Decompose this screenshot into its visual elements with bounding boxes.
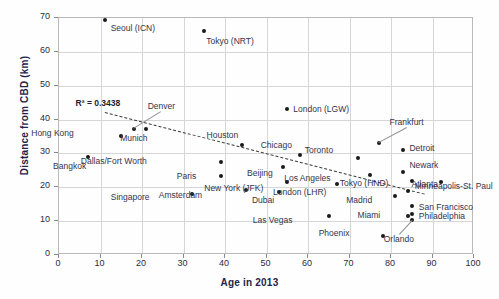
x-axis-tick-label: 10 — [85, 258, 115, 268]
y-axis-tick-label: 0 — [16, 248, 50, 258]
gridline-vertical — [350, 18, 351, 253]
label-leader-line — [399, 220, 413, 235]
data-point-label: Tokyo (HND) — [340, 179, 389, 188]
y-axis-tick-label: 30 — [16, 146, 50, 156]
data-point-label: Frankfurt — [390, 118, 424, 127]
x-axis-tick-mark — [183, 254, 184, 258]
x-axis-title: Age in 2013 — [0, 277, 499, 288]
data-point — [281, 165, 285, 169]
gridline-horizontal — [59, 86, 472, 87]
data-point — [401, 170, 405, 174]
data-point-label: Hong Kong — [31, 129, 74, 138]
y-axis-tick-mark — [54, 152, 58, 153]
scatter-chart: R² = 0.3438Seoul (ICN)Tokyo (NRT)Hong Ko… — [0, 0, 499, 299]
data-point — [356, 156, 360, 160]
data-point — [219, 160, 223, 164]
x-axis-tick-mark — [224, 254, 225, 258]
data-point — [439, 180, 443, 184]
data-point-label: Paris — [177, 172, 196, 181]
data-point — [410, 204, 414, 208]
data-point-label: Los Angeles — [284, 174, 330, 183]
data-point-label: Houston — [207, 131, 239, 140]
x-axis-tick-mark — [349, 254, 350, 258]
data-point-label: Munich — [120, 134, 147, 143]
y-axis-tick-mark — [54, 51, 58, 52]
data-point — [144, 127, 148, 131]
data-point-label: Tokyo (NRT) — [206, 37, 254, 46]
x-axis-tick-label: 20 — [126, 258, 156, 268]
data-point-label: Dubai — [252, 196, 274, 205]
x-axis-tick-label: 30 — [168, 258, 198, 268]
data-point — [393, 194, 397, 198]
data-point — [240, 143, 244, 147]
data-point — [406, 189, 410, 193]
data-point-label: Miami — [358, 211, 381, 220]
x-axis-tick-mark — [100, 254, 101, 258]
y-axis-tick-label: 70 — [16, 11, 50, 21]
x-axis-tick-mark — [141, 254, 142, 258]
y-axis-tick-label: 50 — [16, 79, 50, 89]
y-axis-tick-mark — [54, 254, 58, 255]
x-axis-tick-mark — [432, 254, 433, 258]
data-point-label: New York (JFK) — [204, 184, 263, 193]
data-point — [202, 29, 206, 33]
x-axis-tick-mark — [58, 254, 59, 258]
data-point-label: San Francisco — [419, 203, 473, 212]
x-axis-tick-label: 50 — [251, 258, 281, 268]
y-axis-tick-mark — [54, 186, 58, 187]
data-point-label: Orlando — [384, 235, 414, 244]
x-axis-tick-mark — [307, 254, 308, 258]
data-point-label: Newark — [409, 161, 438, 170]
data-point — [285, 107, 289, 111]
x-axis-tick-label: 90 — [417, 258, 447, 268]
data-point-label: Las Vegas — [253, 216, 293, 225]
x-axis-tick-mark — [390, 254, 391, 258]
data-point-label: Amsterdam — [159, 191, 202, 200]
y-axis-tick-label: 10 — [16, 214, 50, 224]
gridline-vertical — [184, 18, 185, 253]
x-axis-tick-mark — [473, 254, 474, 258]
data-point — [103, 18, 107, 22]
data-point-label: Chicago — [261, 141, 292, 150]
x-axis-tick-label: 40 — [209, 258, 239, 268]
r-squared-annotation: R² = 0.3438 — [76, 98, 121, 108]
data-point — [368, 173, 372, 177]
data-point-label: Detroit — [409, 144, 434, 153]
y-axis-tick-mark — [54, 17, 58, 18]
data-point-label: Toronto — [305, 146, 333, 155]
gridline-horizontal — [59, 187, 472, 188]
y-axis-tick-mark — [54, 220, 58, 221]
data-point-label: Singapore — [111, 193, 150, 202]
data-point-label: Dallas/Fort Worth — [81, 157, 147, 166]
data-point-label: Philadelphia — [419, 212, 465, 221]
data-point — [406, 214, 410, 218]
y-axis-tick-mark — [54, 119, 58, 120]
data-point-label: Denver — [148, 102, 175, 111]
x-axis-tick-mark — [266, 254, 267, 258]
gridline-vertical — [308, 18, 309, 253]
data-point — [219, 174, 223, 178]
label-leader-line — [378, 127, 406, 143]
x-axis-tick-label: 100 — [458, 258, 488, 268]
gridline-horizontal — [59, 52, 472, 53]
y-axis-tick-mark — [54, 85, 58, 86]
x-axis-tick-label: 0 — [43, 258, 73, 268]
data-point-label: London (LGW) — [293, 105, 349, 114]
data-point — [410, 212, 414, 216]
x-axis-tick-label: 70 — [334, 258, 364, 268]
x-axis-tick-label: 60 — [292, 258, 322, 268]
data-point-label: Beijing — [247, 169, 273, 178]
x-axis-tick-label: 80 — [375, 258, 405, 268]
y-axis-tick-label: 60 — [16, 45, 50, 55]
data-point — [327, 214, 331, 218]
data-point-label: Phoenix — [319, 229, 350, 238]
data-point-label: Madrid — [346, 196, 372, 205]
data-point-label: Seoul (ICN) — [111, 24, 155, 33]
gridline-vertical — [101, 18, 102, 253]
data-point-label: London (LHR) — [273, 188, 326, 197]
data-point — [401, 148, 405, 152]
data-point — [335, 182, 339, 186]
data-point-label: Atlanta — [412, 180, 438, 189]
y-axis-tick-label: 20 — [16, 180, 50, 190]
data-point — [298, 153, 302, 157]
